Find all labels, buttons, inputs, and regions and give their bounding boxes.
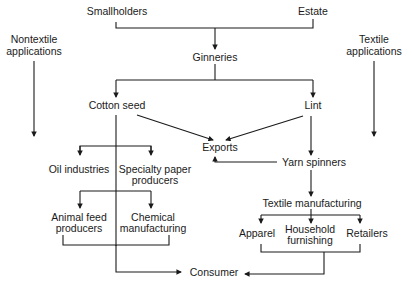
label-nontextile-line2: applications: [6, 46, 61, 57]
node-consumer: Consumer: [190, 267, 238, 278]
node-lint: Lint: [305, 100, 322, 111]
node-smallholders: Smallholders: [87, 6, 148, 17]
node-estate: Estate: [298, 6, 328, 17]
node-oil-industries: Oil industries: [49, 164, 110, 175]
node-household-line2: furnishing: [287, 235, 333, 246]
node-textile-manufacturing: Textile manufacturing: [262, 198, 361, 209]
cotton-supply-chain-diagram: Smallholders Estate Ginneries Nontextile…: [0, 0, 412, 288]
node-apparel: Apparel: [239, 228, 275, 239]
node-chemical-line2: manufacturing: [120, 223, 187, 234]
node-animal-feed-line2: producers: [56, 223, 103, 234]
node-yarn-spinners: Yarn spinners: [282, 157, 346, 168]
label-nontextile-line1: Nontextile: [11, 34, 58, 45]
node-ginneries: Ginneries: [193, 52, 238, 63]
node-exports: Exports: [202, 142, 238, 153]
label-textile-applications-line2: applications: [346, 46, 401, 57]
node-specialty-paper-line2: producers: [132, 175, 179, 186]
label-textile-applications-line1: Textile: [359, 34, 389, 45]
node-cotton-seed: Cotton seed: [89, 100, 146, 111]
node-retailers: Retailers: [346, 228, 387, 239]
